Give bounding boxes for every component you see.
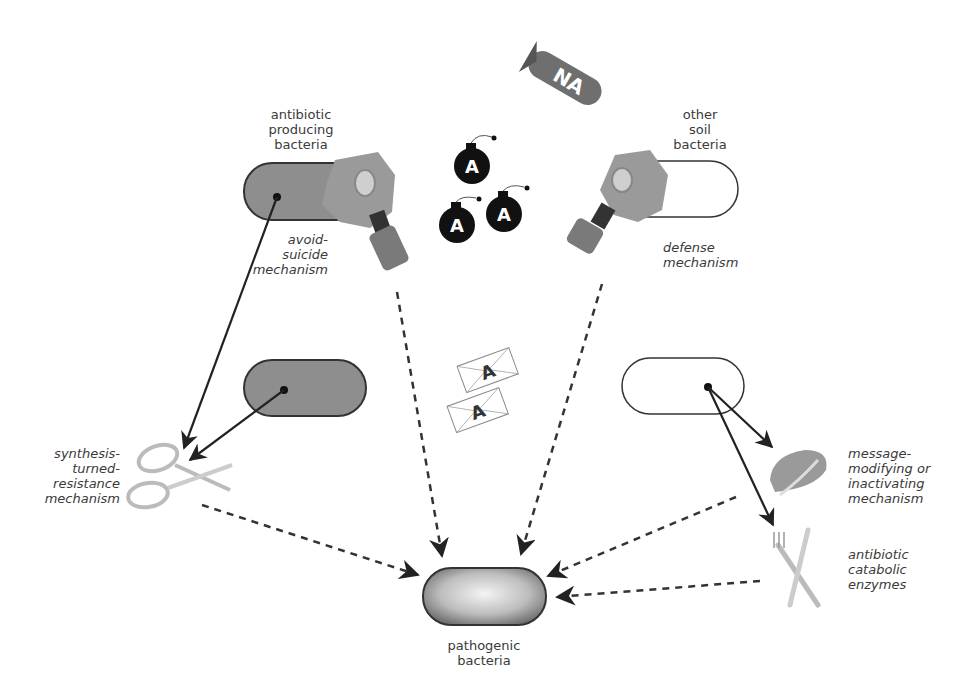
label-defense-mechanism: defense mechanism [663,240,763,270]
scissors-icon [126,440,232,510]
label-avoid-suicide-mechanism: avoid- suicide mechanism [236,232,328,277]
label-synthesis-turned-resistance-mechanism: synthesis- turned- resistance mechanism [30,446,120,506]
label-antibiotic-catabolic-enzymes: antibiotic catabolic enzymes [848,547,948,592]
fork-knife-icon [774,530,818,605]
gas-mask-icon [322,152,410,272]
envelope-icon: A [447,388,508,433]
antibiotic-bomb-icon: A [486,186,530,233]
pathogenic-bacterium [423,568,546,625]
label-message-modifying-mechanism: message- modifying or inactivating mecha… [848,446,953,506]
label-pathogenic-bacteria: pathogenic bacteria [434,638,534,668]
label-other-soil-bacteria: other soil bacteria [660,107,740,152]
inactivating-enzyme-icon [770,450,827,495]
svg-text:A: A [497,204,511,225]
resistant-bacterium-left [244,360,366,416]
diagram-canvas: NA A A A A A [0,0,958,697]
svg-text:A: A [450,215,464,236]
envelope-icon: A [457,348,518,393]
gas-mask-icon-right [565,150,668,256]
label-antibiotic-producing-bacteria: antibiotic producing bacteria [246,107,356,152]
dna-bomb-icon: NA [519,41,609,114]
svg-text:A: A [465,156,479,177]
antibiotic-bomb-icon: A [454,135,497,184]
dashed-arrows [202,284,760,597]
resistant-bacterium-right [622,358,744,414]
antibiotic-bomb-icon: A [439,197,482,244]
